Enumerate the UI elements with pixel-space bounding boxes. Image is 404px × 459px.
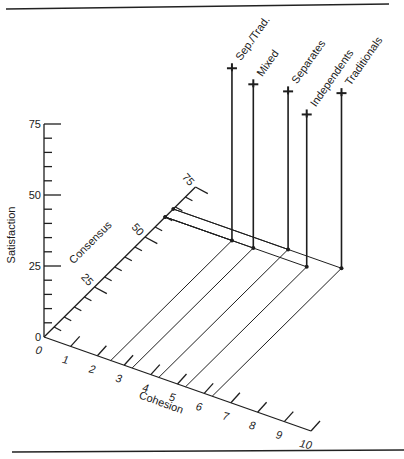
cohesion-tick-label: 1: [61, 353, 69, 366]
satisfaction-tick-label: 50: [29, 189, 41, 201]
cohesion-tick-label: 0: [35, 344, 44, 357]
cohesion-tick: [311, 421, 320, 431]
consensus-marker: [171, 207, 175, 211]
cohesion-tick: [97, 346, 106, 356]
cohesion-tick-label: 2: [87, 362, 96, 375]
cohesion-tick-label: 9: [275, 428, 283, 441]
consensus-tick-label: 50: [129, 221, 146, 238]
satisfaction-tick-label: 75: [29, 118, 41, 130]
base-point: [339, 266, 343, 270]
bottom-rule: [12, 450, 404, 452]
consensus-tick: [54, 327, 61, 331]
cohesion-tick-label: 3: [115, 372, 124, 385]
cohesion-tick: [231, 393, 240, 403]
cohesion-tick: [204, 383, 213, 393]
cohesion-tick: [124, 355, 133, 365]
satisfaction-axis-title: Satisfaction: [5, 207, 17, 264]
base-point: [305, 265, 309, 269]
consensus-tick: [115, 267, 122, 271]
projection-to-cohesion: [159, 249, 288, 377]
satisfaction-tick-label: 25: [29, 260, 41, 272]
cohesion-tick: [151, 365, 160, 375]
satisfaction-tick-label: 0: [35, 331, 41, 343]
consensus-tick: [95, 287, 107, 294]
series-label: Separates: [289, 37, 328, 85]
consensus-tick: [125, 257, 132, 261]
projection-to-cohesion: [132, 248, 253, 368]
cohesion-tick: [258, 402, 267, 412]
cohesion-tick-label: 6: [195, 400, 204, 413]
projection-to-consensus: [165, 217, 307, 267]
cohesion-axis-title: Cohesion: [137, 389, 185, 416]
cohesion-tick: [178, 374, 187, 384]
top-rule: [6, 4, 389, 9]
consensus-tick: [155, 227, 162, 231]
cohesion-tick-label: 10: [299, 437, 314, 451]
consensus-marker: [163, 215, 167, 219]
consensus-tick: [145, 237, 157, 244]
cohesion-tick: [71, 336, 80, 346]
consensus-tick: [74, 307, 81, 311]
projection-to-cohesion: [212, 268, 341, 396]
consensus-tick-label: 25: [79, 271, 96, 288]
series-label: Mixed: [254, 48, 281, 79]
3d-chart: 0255075Satisfaction255075Consensus012345…: [0, 0, 404, 459]
consensus-tick: [196, 187, 208, 194]
projection-to-cohesion: [186, 267, 307, 387]
consensus-axis-title: Consensus: [66, 218, 114, 266]
consensus-tick: [185, 197, 192, 201]
consensus-tick: [84, 297, 91, 301]
cohesion-tick-label: 7: [221, 409, 230, 422]
projection-to-consensus: [173, 209, 341, 268]
axis-labels: 0255075Satisfaction255075Consensus012345…: [5, 14, 385, 452]
consensus-tick: [64, 317, 71, 321]
consensus-tick-label: 75: [180, 171, 197, 188]
consensus-tick: [105, 277, 112, 281]
cohesion-tick-label: 8: [248, 419, 257, 432]
cohesion-tick: [284, 412, 293, 422]
consensus-tick: [135, 247, 142, 251]
